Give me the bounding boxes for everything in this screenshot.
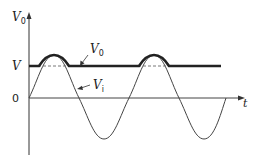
v0-curve-label: V0 [90, 42, 104, 58]
x-axis-label: t [243, 97, 248, 110]
v0-pointer-arrow-icon [80, 55, 88, 66]
y-tick-zero: 0 [12, 92, 19, 105]
y-axis-arrow-icon [27, 12, 32, 19]
input-waveform-vi [29, 55, 226, 139]
x-axis [29, 96, 245, 101]
y-axis-label: V0 [12, 10, 26, 26]
waveform-diagram: V0 t V 0 V0 Vi [0, 0, 253, 158]
output-waveform-v0 [29, 55, 221, 66]
vi-pointer-arrow-icon [77, 85, 90, 90]
y-axis [27, 12, 32, 155]
vi-curve-label: Vi [93, 78, 104, 94]
y-tick-V: V [12, 59, 22, 73]
